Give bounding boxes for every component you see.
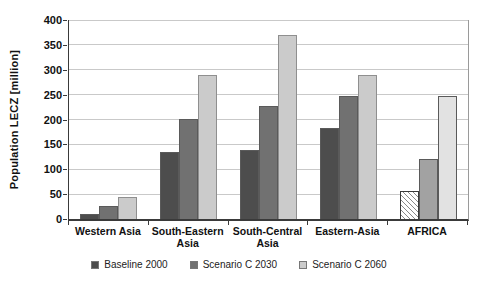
y-tick-mark [63,219,67,220]
bar-south-central-asia-scenario-c-2030 [259,106,278,219]
y-tick-label: 50 [26,188,62,200]
bar-western-asia-baseline-2000 [80,214,99,219]
bar-eastern-asia-scenario-c-2030 [339,96,358,219]
gridline [69,20,468,21]
y-tick-label: 250 [26,89,62,101]
bar-western-asia-scenario-c-2030 [99,206,118,219]
y-tick-mark [63,45,67,46]
y-tick-mark [63,70,67,71]
y-tick-label: 150 [26,138,62,150]
y-tick-mark [63,169,67,170]
category-label: Western Asia [65,225,151,237]
legend: Baseline 2000Scenario C 2030Scenario C 2… [0,259,478,270]
gridline [69,44,468,45]
category-label: Eastern-Asia [304,225,390,237]
y-tick-label: 200 [26,114,62,126]
y-tick-mark [63,95,67,96]
legend-label: Baseline 2000 [104,259,167,270]
plot-area [68,20,469,221]
y-tick-mark [63,144,67,145]
y-tick-mark [63,120,67,121]
legend-label: Scenario C 2060 [312,259,387,270]
y-tick-label: 0 [26,213,62,225]
bar-africa-baseline-2000 [400,191,419,219]
bar-eastern-asia-baseline-2000 [320,128,339,219]
legend-swatch-icon [91,261,99,269]
bar-eastern-asia-scenario-c-2060 [358,75,377,219]
bar-south-central-asia-baseline-2000 [240,150,259,219]
bar-south-eastern-asia-scenario-c-2060 [198,75,217,219]
y-axis-title: Population LECZ [million] [8,20,23,220]
category-label: South-Eastern Asia [145,225,231,249]
legend-item: Baseline 2000 [91,259,167,270]
gridline [69,69,468,70]
y-tick-label: 350 [26,39,62,51]
bar-western-asia-scenario-c-2060 [118,197,137,219]
y-tick-mark [63,20,67,21]
bar-south-central-asia-scenario-c-2060 [278,35,297,219]
y-tick-label: 100 [26,163,62,175]
y-tick-mark [63,194,67,195]
legend-item: Scenario C 2030 [190,259,278,270]
bar-south-eastern-asia-baseline-2000 [160,152,179,219]
category-label: South-Central Asia [225,225,311,249]
legend-item: Scenario C 2060 [299,259,387,270]
y-tick-label: 300 [26,64,62,76]
legend-label: Scenario C 2030 [203,259,278,270]
bar-africa-scenario-c-2060 [438,96,457,219]
bar-africa-scenario-c-2030 [419,159,438,219]
bar-south-eastern-asia-scenario-c-2030 [179,119,198,219]
population-lecz-bar-chart: Population LECZ [million] Baseline 2000S… [0,0,478,287]
legend-swatch-icon [299,261,307,269]
y-tick-label: 400 [26,14,62,26]
gridline [69,94,468,95]
legend-swatch-icon [190,261,198,269]
category-label: AFRICA [384,225,470,237]
